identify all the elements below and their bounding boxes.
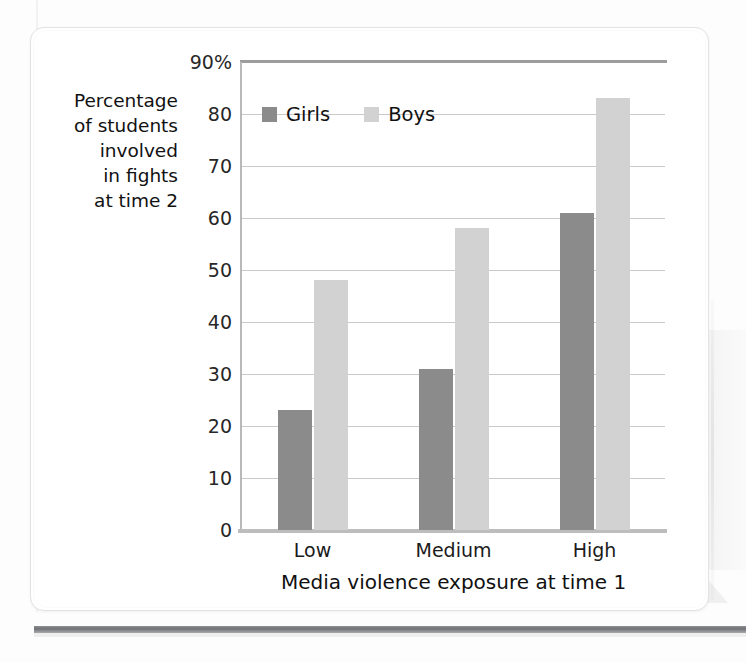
y-axis-tick-label: 80 (208, 103, 232, 125)
legend-swatch-icon (262, 107, 277, 122)
y-axis-tick-label: 60 (208, 207, 232, 229)
y-axis-tick-labels: 0102030405060708090% (150, 62, 232, 530)
x-axis-tick-label: Low (294, 539, 331, 561)
bar-girls-low (278, 410, 312, 530)
figure-page: Percentage of students involved in fight… (0, 0, 746, 663)
page-corner-fold (706, 577, 728, 603)
page-right-fold-line (711, 300, 714, 600)
y-axis-tick-label: 40 (208, 311, 232, 333)
y-axis-tick-label: 0 (220, 519, 232, 541)
bar-boys-medium (455, 228, 489, 530)
bar-boys-high (596, 98, 630, 530)
page-bottom-rule (34, 626, 746, 633)
y-axis-tick-label: 30 (208, 363, 232, 385)
bar-boys-low (314, 280, 348, 530)
bar-girls-high (560, 213, 594, 530)
x-axis-title: Media violence exposure at time 1 (240, 570, 667, 594)
y-axis-tick-label: 90% (190, 51, 232, 73)
x-axis-tick-label: Medium (416, 539, 492, 561)
y-axis-tick-label: 70 (208, 155, 232, 177)
y-axis-tick-label: 20 (208, 415, 232, 437)
page-bottom-rule-shadow (34, 633, 746, 637)
legend-item-boys: Boys (364, 103, 435, 126)
legend-label: Boys (388, 103, 435, 126)
bars-layer (242, 62, 665, 530)
legend-label: Girls (286, 103, 330, 126)
y-axis-tick-label: 10 (208, 467, 232, 489)
bar-girls-medium (419, 369, 453, 530)
x-axis-tick-label: High (573, 539, 617, 561)
chart-legend: GirlsBoys (262, 103, 435, 126)
legend-item-girls: Girls (262, 103, 330, 126)
x-axis-tick-labels: LowMediumHigh (242, 539, 665, 567)
legend-swatch-icon (364, 107, 379, 122)
y-axis-tick-label: 50 (208, 259, 232, 281)
